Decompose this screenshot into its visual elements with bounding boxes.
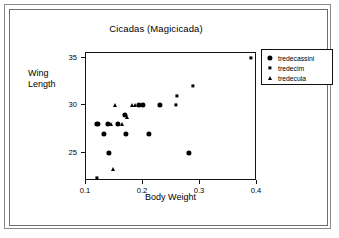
y-axis-tick	[81, 57, 85, 58]
data-point	[120, 122, 124, 126]
y-axis-tick	[81, 152, 85, 153]
data-point	[101, 131, 106, 136]
data-point	[250, 56, 253, 59]
x-axis-tick	[199, 180, 200, 184]
x-axis-tick	[142, 180, 143, 184]
legend-item-label: tredecassini	[278, 55, 314, 62]
figure: Cicadas (Magicicada) Wing Length Body We…	[0, 0, 339, 238]
data-point	[123, 131, 128, 136]
x-axis-label: Body Weight	[85, 192, 256, 202]
legend-marker-icon	[262, 73, 278, 83]
data-point	[106, 150, 111, 155]
legend-item-label: tredecula	[278, 75, 306, 82]
data-point	[158, 103, 163, 108]
y-axis-label-line-2: Length	[28, 79, 76, 90]
data-point	[95, 122, 100, 127]
data-point	[187, 150, 192, 155]
x-axis-tick-label: 0.4	[251, 186, 262, 195]
data-point	[111, 167, 115, 171]
y-axis-label: Wing Length	[28, 68, 76, 90]
y-axis-tick	[81, 104, 85, 105]
x-axis-tick	[85, 180, 86, 184]
data-point	[113, 103, 117, 107]
legend: tredecassinitredecimtredecula	[261, 49, 333, 85]
scatter-points-layer	[86, 53, 255, 179]
y-axis-label-line-1: Wing	[28, 68, 76, 79]
y-axis-tick-label: 30	[57, 100, 77, 109]
data-point	[125, 115, 129, 119]
chart-title: Cicadas (Magicicada)	[0, 23, 312, 34]
y-axis-tick-label: 35	[57, 52, 77, 61]
y-axis-tick-label: 25	[57, 147, 77, 156]
data-point	[146, 131, 151, 136]
data-point	[133, 103, 137, 107]
data-point	[175, 94, 178, 97]
legend-marker-icon	[262, 53, 278, 63]
data-point	[140, 103, 145, 108]
legend-item: tredecassini	[262, 53, 332, 63]
legend-item-label: tredecim	[278, 65, 304, 72]
x-axis-tick-label: 0.1	[80, 186, 91, 195]
data-point	[192, 85, 195, 88]
data-point	[95, 177, 98, 180]
legend-item: tredecula	[262, 73, 332, 83]
legend-marker-icon	[262, 63, 278, 73]
x-axis-tick-label: 0.3	[194, 186, 205, 195]
legend-item: tredecim	[262, 63, 332, 73]
data-point	[109, 122, 113, 126]
x-axis-tick	[256, 180, 257, 184]
plot-area	[85, 52, 256, 180]
data-point	[174, 104, 177, 107]
x-axis-tick-label: 0.2	[137, 186, 148, 195]
